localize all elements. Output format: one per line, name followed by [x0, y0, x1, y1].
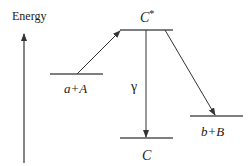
ground-level-label: C	[142, 148, 152, 163]
formation-arrow	[77, 31, 120, 74]
entrance-level-label: a+A	[64, 81, 87, 96]
compound-nucleus-level: C*	[120, 8, 173, 30]
ground-state-level: C	[120, 138, 173, 163]
exit-channel-level: b+B	[190, 116, 243, 139]
entrance-channel-level: a+A	[50, 74, 103, 96]
gamma-label: γ	[130, 79, 137, 94]
particle-decay-arrow	[165, 30, 215, 115]
compound-level-label: C*	[140, 8, 154, 25]
energy-axis-label: Energy	[12, 9, 46, 23]
exit-level-label: b+B	[201, 124, 224, 139]
energy-axis: Energy	[12, 9, 46, 163]
energy-level-diagram: Energy a+A C* C b+B γ	[0, 0, 251, 166]
